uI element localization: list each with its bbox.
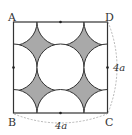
vertex-b-label: B [8,117,16,128]
vertex-a-label: A [8,12,16,23]
vertex-d-label: D [105,12,114,23]
side-label-right: 4a [113,63,125,73]
side-label-bottom: 4a [55,121,67,131]
vertex-c-label: C [105,117,113,128]
